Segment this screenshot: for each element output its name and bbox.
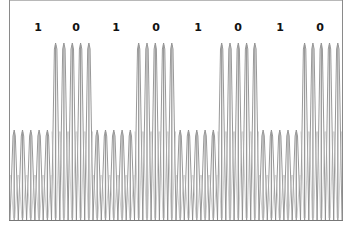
bit-label-6: 0 — [230, 21, 246, 34]
bit-label-5: 1 — [190, 21, 206, 34]
bit-label-1: 1 — [30, 21, 46, 34]
bit-label-2: 0 — [68, 21, 84, 34]
bit-label-4: 0 — [148, 21, 164, 34]
bit-label-3: 1 — [108, 21, 124, 34]
bit-label-8: 0 — [312, 21, 328, 34]
bit-label-7: 1 — [272, 21, 288, 34]
waveform-plot — [0, 0, 347, 230]
baseline-axis — [9, 220, 343, 221]
